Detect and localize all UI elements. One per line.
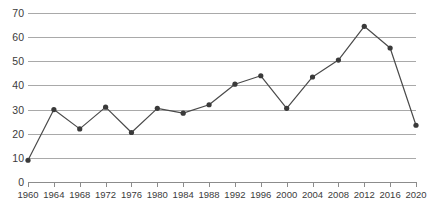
x-tick-1976 (131, 182, 132, 187)
data-point-1968 (77, 126, 82, 131)
x-tick-2000 (287, 182, 288, 187)
y-tick-label-10: 10 (0, 153, 24, 163)
data-point-1980 (155, 106, 160, 111)
x-tick-1996 (261, 182, 262, 187)
chart-title (26, 0, 416, 3)
data-point-2012 (362, 24, 367, 29)
x-tick-1988 (209, 182, 210, 187)
series-polyline (28, 26, 416, 160)
data-point-1976 (129, 130, 134, 135)
x-tick-1964 (54, 182, 55, 187)
data-point-1972 (103, 105, 108, 110)
x-tick-1992 (235, 182, 236, 187)
x-tick-1984 (183, 182, 184, 187)
data-point-1984 (181, 111, 186, 116)
data-point-1992 (232, 82, 237, 87)
data-series-line (28, 13, 416, 182)
y-tick-label-0: 0 (0, 177, 24, 187)
x-axis-ticks (28, 182, 416, 187)
y-tick-label-30: 30 (0, 105, 24, 115)
x-tick-2004 (313, 182, 314, 187)
data-point-2004 (310, 74, 315, 79)
x-axis-labels: 1960196419681972197619801984198819921996… (0, 189, 424, 202)
y-tick-label-50: 50 (0, 56, 24, 66)
data-point-2016 (388, 45, 393, 50)
x-tick-1980 (157, 182, 158, 187)
x-tick-2008 (338, 182, 339, 187)
data-point-1964 (51, 107, 56, 112)
x-tick-2020 (416, 182, 417, 187)
y-tick-label-20: 20 (0, 129, 24, 139)
data-point-2000 (284, 106, 289, 111)
x-tick-label-2020: 2020 (396, 189, 431, 200)
x-tick-1960 (28, 182, 29, 187)
plot-area (28, 13, 416, 182)
data-point-1988 (206, 102, 211, 107)
data-point-1996 (258, 73, 263, 78)
y-tick-label-60: 60 (0, 32, 24, 42)
x-tick-2012 (364, 182, 365, 187)
x-tick-1972 (106, 182, 107, 187)
y-tick-label-70: 70 (0, 8, 24, 18)
data-point-2008 (336, 57, 341, 62)
data-point-2020 (413, 123, 418, 128)
x-tick-1968 (80, 182, 81, 187)
data-point-1960 (25, 158, 30, 163)
x-tick-2016 (390, 182, 391, 187)
y-axis-labels: 010203040506070 (0, 13, 24, 182)
y-tick-label-40: 40 (0, 80, 24, 90)
series-markers (25, 24, 418, 163)
